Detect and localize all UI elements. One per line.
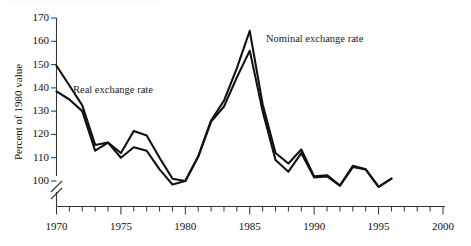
x-tick-label-1995: 1995 — [363, 221, 395, 232]
y-tick-label-130: 130 — [25, 105, 49, 116]
y-axis-ticks — [51, 18, 57, 181]
x-tick-label-2000: 2000 — [427, 221, 459, 232]
x-tick-label-1985: 1985 — [234, 221, 266, 232]
x-tick-label-1980: 1980 — [169, 221, 201, 232]
chart-figure: Percent of 1980 value Real exchange rate… — [0, 0, 471, 246]
y-tick-label-110: 110 — [25, 152, 49, 163]
x-tick-label-1970: 1970 — [41, 221, 73, 232]
y-axis-label: Percent of 1980 value — [12, 64, 24, 160]
y-tick-label-160: 160 — [25, 35, 49, 46]
y-tick-label-150: 150 — [25, 59, 49, 70]
series-line-nominal — [57, 31, 392, 187]
x-axis-ticks — [57, 207, 444, 215]
y-tick-label-170: 170 — [25, 12, 49, 23]
series-label-real: Real exchange rate — [73, 84, 153, 95]
y-tick-label-100: 100 — [25, 175, 49, 186]
series-label-nominal: Nominal exchange rate — [266, 33, 364, 44]
y-tick-label-140: 140 — [25, 82, 49, 93]
exchange-rate-line-chart: Percent of 1980 value Real exchange rate… — [0, 0, 471, 246]
series-line-real — [57, 51, 392, 187]
x-tick-label-1990: 1990 — [298, 221, 330, 232]
x-tick-label-1975: 1975 — [105, 221, 137, 232]
series-paths — [57, 31, 392, 187]
y-tick-label-120: 120 — [25, 128, 49, 139]
